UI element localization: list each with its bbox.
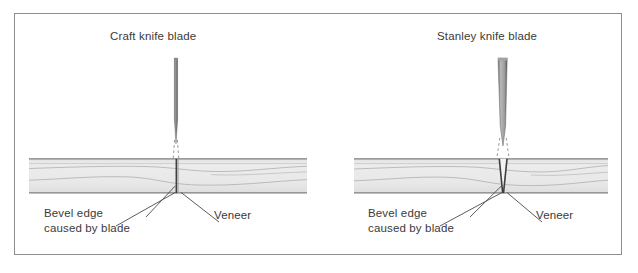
figure-canvas: Craft knife blade Stanley knife blade Be… [0,0,638,273]
right-bevel-edge-label: Bevel edge caused by blade [368,206,454,235]
right-panel-title: Stanley knife blade [437,30,537,42]
right-panel-graphics [354,58,608,226]
right-bevel-edge-label-line2: caused by blade [368,221,454,236]
left-bevel-edge-label: Bevel edge caused by blade [44,206,130,235]
right-bevel-edge-label-line1: Bevel edge [368,206,454,221]
left-panel-title: Craft knife blade [110,30,196,42]
stanley-knife-blade-icon [498,58,507,146]
left-panel-graphics [29,58,307,226]
left-bevel-edge-label-line1: Bevel edge [44,206,130,221]
left-veneer-label: Veneer [214,209,251,221]
right-veneered-board [354,159,608,194]
right-veneer-label: Veneer [536,209,573,221]
craft-knife-blade-icon [174,58,177,144]
left-bevel-edge-label-line2: caused by blade [44,221,130,236]
left-veneered-board [29,159,307,194]
